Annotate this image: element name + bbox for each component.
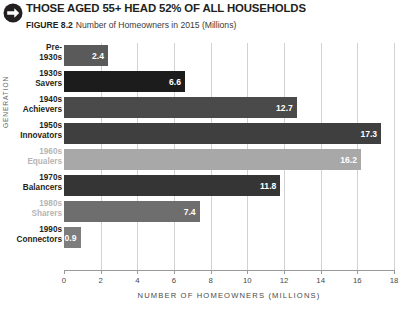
bar: 16.2 <box>64 149 361 170</box>
bar-value-label: 17.3 <box>360 129 377 139</box>
figure-number: FIGURE 8.2 <box>26 20 73 30</box>
bar-row: 1970sBalancers11.8 <box>0 173 401 199</box>
category-label-line1: 1980s <box>6 199 62 209</box>
x-tick-label: 8 <box>199 276 223 285</box>
bar-value-label: 12.7 <box>276 103 293 113</box>
tick-mark <box>137 270 138 274</box>
bar-row: 1950sInnovators17.3 <box>0 121 401 147</box>
bar-value-label: 16.2 <box>340 155 357 165</box>
bar: 6.6 <box>64 71 185 92</box>
x-tick-label: 4 <box>125 276 149 285</box>
figure-subtitle: Number of Homeowners in 2015 (Millions) <box>76 20 236 30</box>
page-title: THOSE AGED 55+ HEAD 52% OF ALL HOUSEHOLD… <box>26 2 306 14</box>
category-label: 1940sAchievers <box>6 95 62 114</box>
chart-header: THOSE AGED 55+ HEAD 52% OF ALL HOUSEHOLD… <box>0 0 401 38</box>
category-label-line1: Pre- <box>6 43 62 53</box>
category-label-line1: 1950s <box>6 121 62 131</box>
tick-mark <box>101 270 102 274</box>
category-label-line2: Connectors <box>6 235 62 245</box>
category-label-line2: Achievers <box>6 105 62 115</box>
tick-mark <box>247 270 248 274</box>
tick-mark <box>357 270 358 274</box>
tick-mark <box>394 270 395 274</box>
category-label: 1990sConnectors <box>6 225 62 244</box>
bar-row: 1930sSavers6.6 <box>0 69 401 95</box>
bar-row: 1940sAchievers12.7 <box>0 95 401 121</box>
category-label-line2: 1930s <box>6 53 62 63</box>
category-label-line2: Savers <box>6 79 62 89</box>
x-tick-label: 14 <box>309 276 333 285</box>
x-tick-label: 12 <box>272 276 296 285</box>
category-label-line2: Sharers <box>6 209 62 219</box>
bar-value-label: 7.4 <box>184 207 196 217</box>
category-label-line1: 1990s <box>6 225 62 235</box>
bar-value-label: 6.6 <box>169 77 181 87</box>
bar: 17.3 <box>64 123 381 144</box>
category-label-line1: 1960s <box>6 147 62 157</box>
tick-mark <box>211 270 212 274</box>
category-label-line2: Equalers <box>6 157 62 167</box>
x-axis-title: NUMBER OF HOMEOWNERS (MILLIONS) <box>64 291 394 300</box>
tick-mark <box>174 270 175 274</box>
tick-mark <box>321 270 322 274</box>
category-label-line1: 1970s <box>6 173 62 183</box>
x-tick-label: 2 <box>89 276 113 285</box>
bar-row: 1960sEqualers16.2 <box>0 147 401 173</box>
bar-value-label: 11.8 <box>260 181 276 191</box>
bar-row: 1990sConnectors0.9 <box>0 225 401 251</box>
category-label: 1950sInnovators <box>6 121 62 140</box>
x-tick-label: 16 <box>345 276 369 285</box>
category-label: Pre-1930s <box>6 43 62 62</box>
figure-caption: FIGURE 8.2Number of Homeowners in 2015 (… <box>26 20 236 30</box>
category-label: 1980sSharers <box>6 199 62 218</box>
x-tick-label: 0 <box>52 276 76 285</box>
x-axis-line <box>64 270 394 271</box>
category-label: 1930sSavers <box>6 69 62 88</box>
bar-value-label: 2.4 <box>92 51 104 61</box>
bar: 2.4 <box>64 45 108 66</box>
tick-mark <box>64 270 65 274</box>
category-label-line2: Innovators <box>6 131 62 141</box>
source-note <box>3 301 253 309</box>
x-tick-label: 18 <box>382 276 401 285</box>
category-label-line1: 1940s <box>6 95 62 105</box>
bar: 0.9 <box>64 227 81 248</box>
category-label: 1960sEqualers <box>6 147 62 166</box>
bar: 12.7 <box>64 97 297 118</box>
category-label-line2: Balancers <box>6 183 62 193</box>
bar-row: Pre-1930s2.4 <box>0 43 401 69</box>
category-label-line1: 1930s <box>6 69 62 79</box>
tick-mark <box>284 270 285 274</box>
x-tick-label: 10 <box>235 276 259 285</box>
category-label: 1970sBalancers <box>6 173 62 192</box>
arrow-right-circle-icon <box>3 3 23 23</box>
bar-row: 1980sSharers7.4 <box>0 199 401 225</box>
bar: 7.4 <box>64 201 200 222</box>
bar: 11.8 <box>64 175 280 196</box>
bar-value-label: 0.9 <box>65 233 77 243</box>
x-tick-label: 6 <box>162 276 186 285</box>
bar-chart: GENERATION Pre-1930s2.41930sSavers6.6194… <box>0 40 401 292</box>
